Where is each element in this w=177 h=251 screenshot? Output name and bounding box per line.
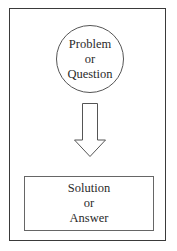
node-label-line: Problem bbox=[69, 37, 111, 52]
problem-question-node: Problem or Question bbox=[56, 25, 124, 93]
down-arrow-icon bbox=[72, 103, 108, 159]
node-label-line: Answer bbox=[70, 211, 109, 226]
node-label-line: Question bbox=[67, 67, 112, 82]
node-label-line: Solution bbox=[68, 181, 110, 196]
node-label-line: or bbox=[85, 52, 95, 67]
solution-answer-node: Solution or Answer bbox=[24, 176, 154, 231]
node-label-line: or bbox=[84, 196, 94, 211]
